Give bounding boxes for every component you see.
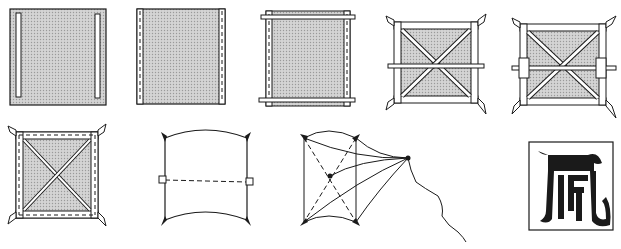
corner-tab-icon xyxy=(8,212,16,224)
side-block-left xyxy=(519,58,529,78)
corner-tab-icon xyxy=(161,132,167,142)
step-8-kite-with-string xyxy=(298,130,498,248)
step-5-blocked-frame xyxy=(508,10,620,120)
corner-tab-icon xyxy=(245,216,251,226)
corner-tab-icon xyxy=(512,100,520,114)
corner-tab-icon xyxy=(478,14,486,26)
left-knot-icon xyxy=(159,176,166,183)
kite-bridle-figure xyxy=(298,130,498,248)
corner-tab-icon xyxy=(606,16,616,28)
step-9-character-decoration xyxy=(528,141,614,231)
step-4-cross-frame xyxy=(382,10,490,118)
corner-tab-icon xyxy=(512,18,520,28)
step-6-bordered-cross xyxy=(6,124,108,226)
corner-tab-icon xyxy=(98,124,106,136)
corner-tab-icon xyxy=(606,100,616,118)
sticks-figure xyxy=(258,8,358,112)
folded-paper-figure xyxy=(136,8,228,108)
bowed-outline-figure xyxy=(155,128,255,232)
side-block-right xyxy=(596,58,606,78)
corner-tab-icon xyxy=(245,132,251,142)
step-2-folded-edges xyxy=(136,8,228,108)
step-1-paper-with-slits xyxy=(9,8,109,108)
corner-tab-icon xyxy=(352,218,360,226)
corner-tab-icon xyxy=(98,212,106,226)
corner-tab-icon xyxy=(386,16,394,26)
step-7-bowed-outline xyxy=(155,128,255,232)
corner-tab-icon xyxy=(478,98,486,114)
bordered-cross-figure xyxy=(6,124,108,226)
step-3-horizontal-sticks xyxy=(258,8,358,112)
center-knot-icon xyxy=(328,174,333,179)
flying-string xyxy=(408,158,466,242)
corner-tab-icon xyxy=(386,98,394,110)
right-knot-icon xyxy=(246,178,253,185)
blocked-frame-figure xyxy=(508,10,620,120)
corner-tab-icon xyxy=(8,126,16,136)
bridle-knot-icon xyxy=(406,156,411,161)
slit-paper-figure xyxy=(9,8,109,108)
corner-tab-icon xyxy=(161,216,167,226)
cross-frame-figure xyxy=(382,10,490,118)
wind-character-figure xyxy=(528,141,614,231)
